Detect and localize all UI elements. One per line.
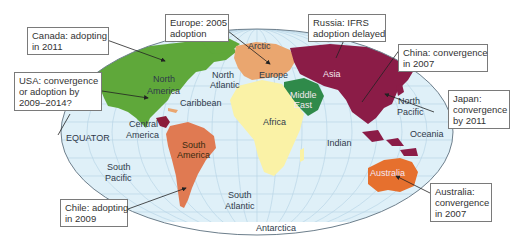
label-africa: Africa (263, 117, 286, 127)
callout-japan-line1: Japan: (453, 93, 505, 104)
callout-australia-line3: in 2007 (435, 208, 487, 219)
label-central-america-1: Central (129, 119, 158, 129)
label-europe: Europe (259, 70, 288, 80)
label-north-pacific-1: North (398, 96, 420, 106)
callout-china-line1: China: convergence (403, 47, 483, 58)
callout-chile-line1: Chile: adopting (65, 202, 123, 213)
label-north-atlantic-2: Atlantic (210, 80, 240, 90)
callout-usa: USA: convergence or adoption by 2009–201… (14, 72, 102, 111)
callout-chile-line2: in 2009 (65, 213, 123, 224)
label-south-america-2: America (177, 150, 210, 160)
label-north-atlantic-1: North (212, 70, 234, 80)
label-indian: Indian (327, 138, 352, 148)
label-central-america-2: America (126, 130, 159, 140)
callout-russia: Russia: IFRS adoption delayed (308, 14, 386, 42)
label-north-america-1: North (153, 74, 175, 84)
callout-japan-line3: by 2011 (453, 115, 505, 126)
callout-usa-line2: or adoption by (19, 86, 97, 97)
callout-australia-line2: convergence (435, 197, 487, 208)
label-caribbean: Caribbean (180, 98, 222, 108)
label-south-atlantic-2: Atlantic (225, 201, 255, 211)
callout-australia: Australia: convergence in 2007 (430, 183, 492, 222)
callout-europe-line1: Europe: 2005 (170, 17, 224, 28)
label-north-america-2: America (147, 86, 180, 96)
label-asia: Asia (323, 69, 341, 79)
callout-europe: Europe: 2005 adoption (165, 14, 229, 42)
callout-japan: Japan: convergence by 2011 (448, 90, 510, 129)
callout-usa-line1: USA: convergence (19, 75, 97, 86)
label-antarctica: Antarctica (256, 223, 296, 233)
callout-japan-line2: convergence (453, 104, 505, 115)
callout-canada-line2: in 2011 (32, 41, 104, 52)
label-south-atlantic-1: South (228, 190, 252, 200)
callout-usa-line3: 2009–2014? (19, 97, 97, 108)
label-australia: Australia (370, 168, 405, 178)
callout-europe-line2: adoption (170, 28, 224, 39)
label-south-pacific-1: South (107, 162, 131, 172)
label-equator: EQUATOR (66, 133, 110, 143)
callout-russia-line2: adoption delayed (313, 28, 381, 39)
label-north-pacific-2: Pacific (397, 107, 424, 117)
callout-canada-line1: Canada: adopting (32, 30, 104, 41)
label-south-pacific-2: Pacific (105, 173, 132, 183)
callout-canada: Canada: adopting in 2011 (27, 27, 109, 55)
callout-chile: Chile: adopting in 2009 (60, 199, 128, 227)
callout-china-line2: in 2007 (403, 58, 483, 69)
callout-australia-line1: Australia: (435, 186, 487, 197)
label-oceania: Oceania (410, 129, 444, 139)
label-south-america-1: South (182, 140, 206, 150)
callout-russia-line1: Russia: IFRS (313, 17, 381, 28)
callout-china: China: convergence in 2007 (398, 44, 488, 72)
label-middle-east-2: East (294, 100, 313, 110)
label-middle-east-1: Middle (290, 90, 317, 100)
